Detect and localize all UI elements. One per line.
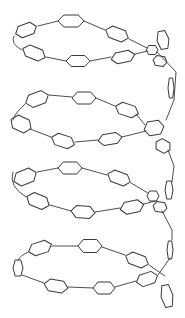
- hexagon-ring: [43, 278, 69, 294]
- ring-link: [122, 131, 146, 137]
- hexagon-ring: [146, 46, 158, 55]
- hexagon-ring: [50, 132, 77, 151]
- ring-link: [50, 205, 71, 211]
- hexagon-ring: [14, 21, 39, 40]
- hexagon-ring: [71, 205, 96, 219]
- ring-link: [37, 168, 58, 172]
- hexagon-ring: [159, 284, 175, 308]
- ring-link: [46, 57, 66, 61]
- hexagon-rings: [8, 15, 175, 308]
- hexagon-ring: [143, 119, 165, 136]
- ring-link: [49, 95, 72, 97]
- ring-link: [68, 287, 93, 288]
- ring-link: [96, 98, 115, 106]
- hexagon-ring: [24, 190, 51, 211]
- hexagon-ring: [21, 43, 48, 63]
- hexagon-ring: [135, 270, 160, 288]
- hexagon-ring: [58, 162, 82, 174]
- hexagon-ring: [78, 240, 102, 253]
- hexagon-ring: [8, 113, 34, 135]
- ring-link: [131, 183, 148, 193]
- ring-link: [84, 21, 105, 30]
- hexagon-ring: [93, 282, 115, 294]
- hexagon-ring: [167, 241, 173, 259]
- hexagon-ring: [124, 250, 151, 269]
- ring-link: [158, 258, 170, 275]
- ring-link: [22, 275, 44, 283]
- hexagon-ring: [58, 15, 84, 27]
- ring-link: [30, 129, 51, 137]
- ring-link: [162, 211, 172, 240]
- hexagon-ring: [152, 201, 168, 213]
- hexagon-ring: [11, 166, 38, 188]
- ring-link: [168, 150, 174, 182]
- ring-link: [136, 114, 145, 125]
- hexagon-ring: [97, 131, 123, 146]
- helix-diagram: [0, 0, 185, 318]
- hexagon-ring: [104, 24, 131, 43]
- ring-link: [90, 57, 111, 61]
- ring-link: [95, 208, 120, 212]
- hexagon-ring: [165, 181, 173, 199]
- ring-link: [102, 247, 125, 255]
- ring-link: [129, 39, 147, 48]
- hexagon-ring: [168, 78, 174, 98]
- glycosidic-links: [12, 21, 176, 288]
- hexagon-ring: [27, 239, 54, 258]
- ring-link: [82, 168, 107, 175]
- ring-link: [115, 281, 136, 287]
- hexagon-ring: [24, 89, 51, 109]
- ring-link: [75, 140, 98, 142]
- hexagon-ring: [153, 137, 173, 155]
- hexagon-ring: [72, 92, 96, 104]
- hexagon-ring: [106, 168, 133, 187]
- ring-link: [38, 21, 58, 26]
- hexagon-ring: [147, 191, 159, 201]
- hexagon-ring: [119, 199, 145, 216]
- hexagon-ring: [110, 49, 136, 65]
- hexagon-ring: [156, 30, 171, 50]
- ring-link: [149, 265, 165, 276]
- hexagon-ring: [66, 56, 90, 67]
- hexagon-ring: [13, 260, 23, 276]
- ring-link: [135, 51, 148, 54]
- hexagon-ring: [114, 101, 141, 120]
- ring-link: [13, 36, 22, 50]
- ring-link: [18, 252, 28, 260]
